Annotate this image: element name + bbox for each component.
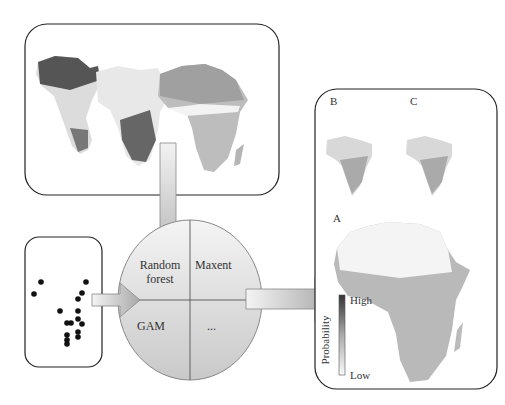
model-other: ... <box>207 319 216 333</box>
occurrence-points-box <box>25 237 102 367</box>
model-gam: GAM <box>137 319 165 333</box>
panel-label-b: B <box>330 94 337 108</box>
panel-label-a: A <box>333 211 341 225</box>
legend-title: Probability <box>318 310 332 370</box>
panel-label-c: C <box>410 94 417 108</box>
legend-high: High <box>350 293 372 307</box>
diagram-canvas <box>0 0 505 405</box>
legend-low: Low <box>350 368 370 382</box>
model-maxent: Maxent <box>195 258 232 272</box>
probability-legend-bar <box>339 295 345 375</box>
model-random-forest: Random forest <box>137 258 183 286</box>
